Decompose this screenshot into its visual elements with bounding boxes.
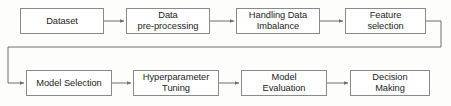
node-decision-making-label: Decision Making bbox=[353, 72, 427, 94]
node-data-preprocessing[interactable]: Data pre-processing bbox=[126, 8, 210, 34]
node-decision-making[interactable]: Decision Making bbox=[350, 70, 430, 96]
node-model-selection[interactable]: Model Selection bbox=[26, 70, 112, 96]
node-dataset[interactable]: Dataset bbox=[20, 8, 104, 34]
node-dataset-label: Dataset bbox=[23, 16, 101, 27]
flowchart-diagram: Dataset Data pre-processing Handling Dat… bbox=[0, 0, 451, 106]
node-model-evaluation[interactable]: Model Evaluation bbox=[241, 70, 327, 96]
node-model-evaluation-label: Model Evaluation bbox=[244, 72, 324, 94]
node-data-preprocessing-label: Data pre-processing bbox=[129, 10, 207, 32]
node-model-selection-label: Model Selection bbox=[29, 78, 109, 89]
node-feature-selection[interactable]: Feature selection bbox=[345, 8, 426, 34]
node-handling-data-imbalance-label: Handling Data Imbalance bbox=[239, 10, 317, 32]
node-handling-data-imbalance[interactable]: Handling Data Imbalance bbox=[236, 8, 320, 34]
node-hyperparameter-tuning[interactable]: Hyperparameter Tuning bbox=[133, 70, 219, 96]
node-feature-selection-label: Feature selection bbox=[348, 10, 423, 32]
node-hyperparameter-tuning-label: Hyperparameter Tuning bbox=[136, 72, 216, 94]
